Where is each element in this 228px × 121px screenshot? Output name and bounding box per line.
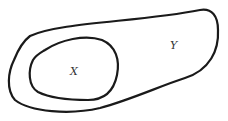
venn-diagram: X Y xyxy=(0,0,228,121)
set-x-label: X xyxy=(69,65,79,78)
set-y-boundary xyxy=(9,10,218,112)
set-y-label: Y xyxy=(170,39,179,52)
